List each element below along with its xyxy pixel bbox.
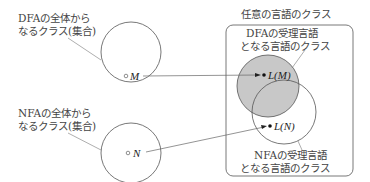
dfa-set-label-line2: なるクラス(集合): [18, 25, 96, 37]
point-ln-icon: [268, 124, 272, 128]
nfa-label-leader: [68, 133, 101, 150]
nfa-set-label-line1: NFAの全体から: [18, 107, 91, 119]
nfa-region-label-line2: となる言語のクラス: [240, 162, 330, 174]
dfa-element-m: M: [129, 70, 140, 82]
point-n-icon: [126, 151, 130, 155]
point-lm-icon: [262, 73, 266, 77]
arrowhead-ln-icon: [261, 125, 267, 129]
dfa-region-label-line1: DFAの受理言語: [246, 27, 319, 39]
nfa-language-element: L(N): [273, 120, 295, 133]
point-m-icon: [124, 74, 128, 78]
dfa-label-leader: [68, 38, 101, 60]
language-box-title: 任意の言語のクラス: [241, 8, 331, 20]
nfa-region-label-line1: NFAの受理言語: [254, 149, 328, 161]
arrow-n-to-ln: [146, 127, 264, 152]
dfa-language-element: L(M): [267, 69, 291, 82]
dfa-region-label-line2: となる言語のクラス: [240, 40, 330, 52]
dfa-region-leader: [292, 50, 305, 68]
nfa-element-n: N: [132, 147, 141, 159]
diagram-canvas: DFAの全体から なるクラス(集合) M NFAの全体から なるクラス(集合) …: [0, 0, 370, 182]
nfa-set-circle: [101, 123, 161, 182]
dfa-set-label-line1: DFAの全体から: [18, 12, 90, 24]
dfa-language-circle: [237, 55, 299, 117]
nfa-set-label-line2: なるクラス(集合): [18, 120, 96, 132]
